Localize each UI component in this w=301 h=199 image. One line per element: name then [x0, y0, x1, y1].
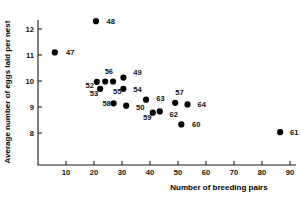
- x-tick-label: 10: [62, 168, 70, 177]
- y-axis-title: Average number of eggs laid per nest: [3, 20, 12, 163]
- point-label: 60: [192, 120, 200, 129]
- data-points: 4748495052535455565758596061626364: [52, 17, 300, 137]
- data-point: 57: [172, 88, 184, 106]
- point-marker: [111, 100, 117, 106]
- x-tick-label: 30: [118, 168, 126, 177]
- point-marker: [123, 103, 129, 109]
- point-marker: [277, 129, 283, 135]
- point-label: 49: [133, 68, 141, 77]
- point-marker: [120, 75, 126, 81]
- x-tick-label: 40: [146, 168, 154, 177]
- plot-area: 10203040506070809089101112 4748495052535…: [0, 0, 301, 199]
- y-tick-label: 10: [26, 77, 34, 86]
- y-tick-label: 8: [30, 129, 34, 138]
- data-point: 58: [102, 99, 116, 108]
- point-marker: [102, 78, 108, 84]
- axes: [38, 20, 296, 165]
- point-label: 50: [136, 103, 144, 112]
- point-marker: [157, 108, 163, 114]
- point-label: 55: [113, 87, 122, 96]
- x-tick-label: 90: [286, 168, 294, 177]
- point-marker: [94, 79, 100, 85]
- data-point: 63: [143, 94, 165, 103]
- data-point: 62: [157, 108, 178, 119]
- point-marker: [52, 49, 58, 55]
- point-marker: [93, 18, 99, 24]
- point-marker: [110, 78, 116, 84]
- data-point: 61: [277, 128, 299, 137]
- data-point: 59: [143, 110, 156, 122]
- x-axis-title: Number of breeding pairs: [170, 183, 268, 192]
- data-point: 64: [184, 100, 206, 109]
- point-label: 54: [133, 85, 142, 94]
- x-tick-label: 20: [90, 168, 98, 177]
- point-label: 59: [143, 113, 151, 122]
- y-tick-label: 12: [26, 25, 34, 34]
- point-label: 48: [107, 17, 115, 26]
- point-label: 63: [156, 94, 164, 103]
- x-tick-label: 60: [202, 168, 210, 177]
- x-tick-label: 50: [174, 168, 182, 177]
- point-label: 62: [170, 110, 178, 119]
- y-tick-label: 11: [26, 51, 35, 60]
- x-tick-label: 70: [230, 168, 238, 177]
- data-point: 54: [120, 85, 142, 94]
- axis-lines: [38, 20, 296, 165]
- point-label: 64: [198, 100, 207, 109]
- point-label: 58: [102, 99, 110, 108]
- point-label: 56: [105, 67, 113, 76]
- data-point: 60: [178, 120, 200, 129]
- point-label: 61: [290, 128, 299, 137]
- data-point: 47: [52, 48, 75, 57]
- data-point: 50: [123, 103, 144, 112]
- y-tick-label: 9: [30, 103, 34, 112]
- point-marker: [178, 121, 184, 127]
- x-tick-label: 80: [258, 168, 266, 177]
- point-marker: [184, 101, 190, 107]
- point-label: 53: [90, 89, 98, 98]
- scatter-chart: 10203040506070809089101112 4748495052535…: [0, 0, 301, 199]
- point-label: 57: [175, 88, 183, 97]
- point-marker: [172, 100, 178, 106]
- point-label: 47: [66, 48, 74, 57]
- data-point: 48: [93, 17, 115, 26]
- point-marker: [143, 97, 149, 103]
- data-point: 55: [110, 78, 122, 95]
- data-point: 49: [120, 68, 141, 81]
